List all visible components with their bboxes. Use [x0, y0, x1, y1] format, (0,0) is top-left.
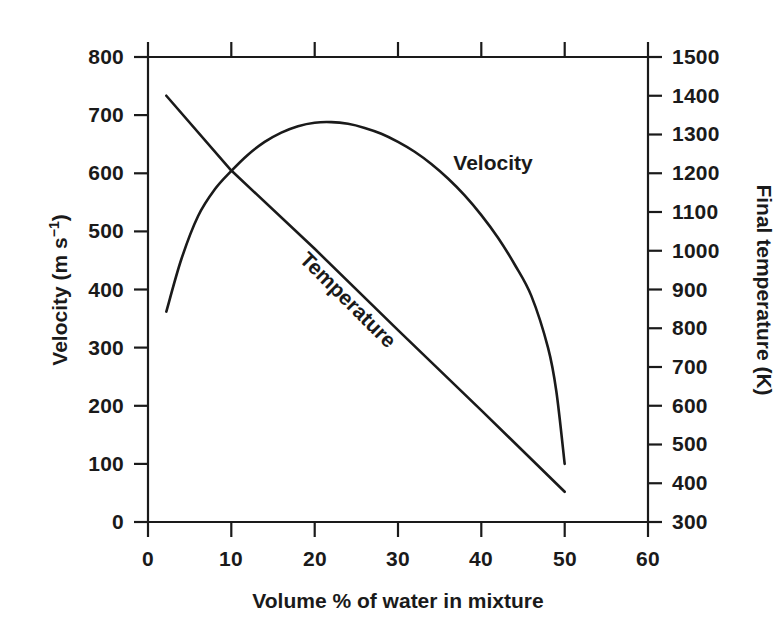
right-tick-label: 1300: [672, 122, 720, 146]
velocity-series-label: Velocity: [453, 151, 532, 175]
left-tick-label: 200: [58, 394, 124, 418]
left-tick-label: 800: [58, 45, 124, 69]
left-tick-label: 100: [58, 452, 124, 476]
right-tick-label: 700: [672, 355, 708, 379]
right-tick-label: 1100: [672, 200, 718, 224]
right-tick-label: 500: [672, 432, 708, 456]
x-axis-ticks: [148, 522, 648, 537]
right-axis-title: Final temperature (K): [752, 184, 776, 395]
x-axis-title: Volume % of water in mixture: [252, 589, 543, 613]
left-axis-ticks: [134, 57, 148, 522]
left-axis-title-superscript: −1: [46, 221, 62, 237]
x-tick-label: 0: [142, 547, 154, 571]
left-tick-label: 700: [58, 103, 124, 127]
axes-frame: [148, 57, 648, 522]
right-tick-label: 1500: [672, 45, 720, 69]
right-tick-label: 600: [672, 394, 708, 418]
x-tick-label: 60: [636, 547, 660, 571]
left-axis-title: Velocity (m s−1): [46, 214, 72, 365]
x-tick-label: 10: [219, 547, 243, 571]
left-axis-title-suffix: ): [48, 214, 71, 221]
right-tick-label: 1400: [672, 84, 720, 108]
x-tick-label: 20: [303, 547, 327, 571]
right-axis-ticks: [648, 57, 662, 522]
right-tick-label: 1200: [672, 161, 720, 185]
right-tick-label: 900: [672, 278, 708, 302]
right-tick-label: 1000: [672, 239, 720, 263]
x-tick-label: 40: [469, 547, 493, 571]
right-tick-label: 800: [672, 316, 708, 340]
left-tick-label: 600: [58, 161, 124, 185]
right-tick-label: 400: [672, 471, 708, 495]
x-tick-label: 30: [386, 547, 410, 571]
right-tick-label: 300: [672, 510, 708, 534]
x-tick-label: 50: [553, 547, 577, 571]
left-tick-label: 0: [58, 510, 124, 534]
left-axis-title-text: Velocity (m s: [48, 237, 71, 365]
top-axis-ticks: [148, 42, 648, 57]
